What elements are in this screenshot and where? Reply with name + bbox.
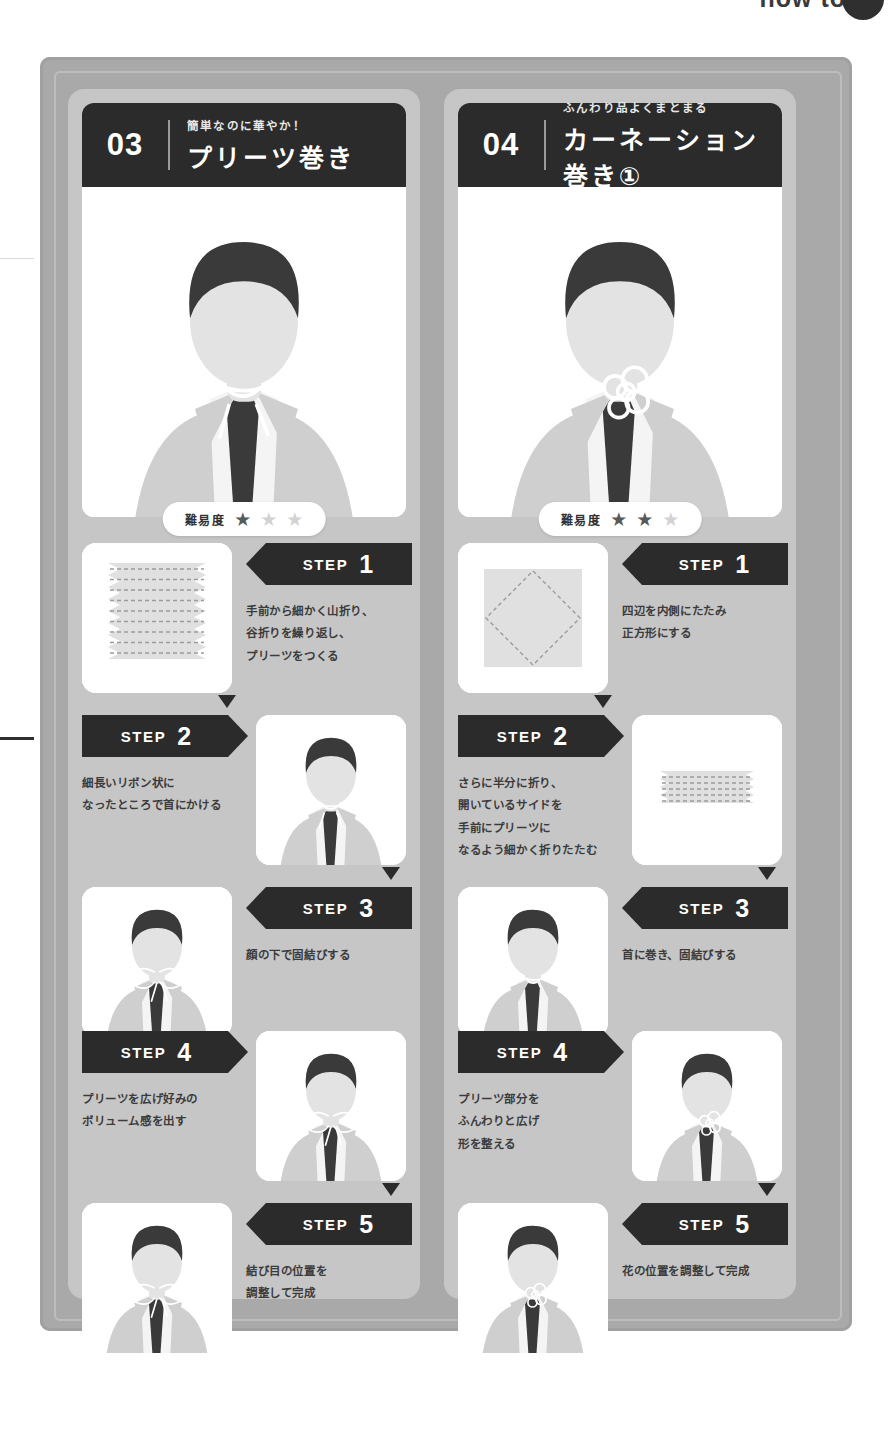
hero-illustration (458, 187, 782, 517)
step-number: 2 (177, 724, 191, 749)
method-card-04: 04 ふんわり品よくまとまる カーネーション巻き① 難易度 ★★★ STEP (444, 89, 796, 1299)
step-row: STEP 4 プリーツを広げ好みのボリューム感を出す (82, 1031, 406, 1181)
method-card-03: 03 簡単なのに華やか！ プリーツ巻き 難易度 ★★★ STEP 1 (68, 89, 420, 1299)
difficulty-label: 難易度 (561, 511, 602, 528)
step-number: 2 (553, 724, 567, 749)
difficulty-badge: 難易度 ★★★ (163, 502, 326, 536)
step-number: 1 (735, 552, 749, 577)
step-description: プリーツ部分をふんわりと広げ形を整える (458, 1088, 618, 1155)
step-block: STEP 1 手前から細かく山折り、谷折りを繰り返し、プリーツをつくる (246, 543, 406, 667)
step-thumbnail (82, 543, 232, 693)
left-rule (0, 737, 34, 740)
difficulty-label: 難易度 (185, 511, 226, 528)
step-word: STEP (303, 900, 349, 917)
step-description: 手前から細かく山折り、谷折りを繰り返し、プリーツをつくる (246, 600, 406, 667)
step-thumbnail (632, 715, 782, 865)
step-number: 3 (359, 896, 373, 921)
step-badge: STEP 1 (246, 543, 412, 585)
step-row: STEP 1 四辺を内側にたたみ正方形にする (458, 543, 782, 693)
step-badge: STEP 5 (622, 1203, 788, 1245)
step-row: STEP 4 プリーツ部分をふんわりと広げ形を整える (458, 1031, 782, 1181)
step-thumbnail (632, 1031, 782, 1181)
step-word: STEP (121, 1044, 167, 1061)
step-row: STEP 3 顔の下で固結びする (82, 887, 406, 1037)
how-to-label: how to (759, 0, 846, 13)
step-badge: STEP 1 (622, 543, 788, 585)
step-description: 細長いリボン状になったところで首にかける (82, 772, 242, 817)
step-number: 5 (735, 1212, 749, 1237)
step-thumbnail (82, 1203, 232, 1353)
step-word: STEP (121, 728, 167, 745)
difficulty-badge: 難易度 ★★★ (539, 502, 702, 536)
step-row: STEP 1 手前から細かく山折り、谷折りを繰り返し、プリーツをつくる (82, 543, 406, 693)
step-badge: STEP 4 (458, 1031, 624, 1073)
flow-arrow-icon (382, 867, 400, 880)
corner-dot-icon (842, 0, 884, 20)
step-thumbnail (458, 1203, 608, 1353)
difficulty-star: ★ (610, 510, 627, 529)
step-thumbnail (256, 1031, 406, 1181)
step-badge: STEP 5 (246, 1203, 412, 1245)
card-subtitle: 簡単なのに華やか！ (187, 117, 406, 133)
step-block: STEP 5 花の位置を調整して完成 (622, 1203, 782, 1282)
step-word: STEP (497, 1044, 543, 1061)
difficulty-star: ★ (286, 510, 303, 529)
step-description: 花の位置を調整して完成 (622, 1260, 782, 1282)
step-number: 4 (553, 1040, 567, 1065)
flow-arrow-icon (382, 1183, 400, 1196)
step-row: STEP 2 細長いリボン状になったところで首にかける (82, 715, 406, 865)
step-word: STEP (679, 900, 725, 917)
step-block: STEP 3 首に巻き、固結びする (622, 887, 782, 966)
step-block: STEP 3 顔の下で固結びする (246, 887, 406, 966)
step-description: 首に巻き、固結びする (622, 944, 782, 966)
step-thumbnail (256, 715, 406, 865)
step-badge: STEP 4 (82, 1031, 248, 1073)
step-word: STEP (679, 556, 725, 573)
step-thumbnail (458, 887, 608, 1037)
step-word: STEP (679, 1216, 725, 1233)
card-title: カーネーション巻き① (563, 120, 782, 192)
step-description: 顔の下で固結びする (246, 944, 406, 966)
step-badge: STEP 3 (246, 887, 412, 929)
step-block: STEP 4 プリーツを広げ好みのボリューム感を出す (82, 1031, 242, 1133)
step-description: 四辺を内側にたたみ正方形にする (622, 600, 782, 645)
step-number: 4 (177, 1040, 191, 1065)
left-hairline (0, 258, 34, 259)
step-row: STEP 5 花の位置を調整して完成 (458, 1203, 782, 1353)
step-description: プリーツを広げ好みのボリューム感を出す (82, 1088, 242, 1133)
step-word: STEP (303, 1216, 349, 1233)
flow-arrow-icon (218, 695, 236, 708)
step-number: 3 (735, 896, 749, 921)
flow-arrow-icon (594, 695, 612, 708)
difficulty-star: ★ (636, 510, 653, 529)
step-block: STEP 4 プリーツ部分をふんわりと広げ形を整える (458, 1031, 618, 1155)
step-badge: STEP 2 (458, 715, 624, 757)
hero-illustration (82, 187, 406, 517)
difficulty-star: ★ (260, 510, 277, 529)
card-number: 04 (458, 127, 544, 163)
flow-arrow-icon (758, 867, 776, 880)
flow-arrow-icon (758, 1183, 776, 1196)
step-badge: STEP 2 (82, 715, 248, 757)
step-description: さらに半分に折り、開いているサイドを手前にプリーツになるよう細かく折りたたむ (458, 772, 618, 862)
step-block: STEP 2 細長いリボン状になったところで首にかける (82, 715, 242, 817)
step-number: 1 (359, 552, 373, 577)
card-title: プリーツ巻き (187, 138, 406, 174)
step-word: STEP (303, 556, 349, 573)
step-badge: STEP 3 (622, 887, 788, 929)
card-header: 04 ふんわり品よくまとまる カーネーション巻き① (458, 103, 782, 187)
step-block: STEP 1 四辺を内側にたたみ正方形にする (622, 543, 782, 645)
step-row: STEP 2 さらに半分に折り、開いているサイドを手前にプリーツになるよう細かく… (458, 715, 782, 865)
step-word: STEP (497, 728, 543, 745)
step-row: STEP 3 首に巻き、固結びする (458, 887, 782, 1037)
difficulty-star: ★ (234, 510, 251, 529)
poster-panel: 03 簡単なのに華やか！ プリーツ巻き 難易度 ★★★ STEP 1 (40, 57, 852, 1331)
step-thumbnail (82, 887, 232, 1037)
step-description: 結び目の位置を調整して完成 (246, 1260, 406, 1305)
card-header: 03 簡単なのに華やか！ プリーツ巻き (82, 103, 406, 187)
step-number: 5 (359, 1212, 373, 1237)
top-strip: how to (0, 0, 894, 52)
step-block: STEP 2 さらに半分に折り、開いているサイドを手前にプリーツになるよう細かく… (458, 715, 618, 862)
step-row: STEP 5 結び目の位置を調整して完成 (82, 1203, 406, 1353)
difficulty-star: ★ (662, 510, 679, 529)
